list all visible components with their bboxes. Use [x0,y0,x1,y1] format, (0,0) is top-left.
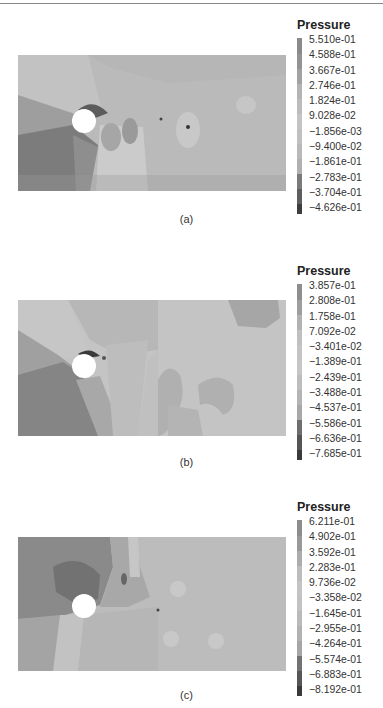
tick-label: 6.211e-01 [309,514,362,529]
pressure-contour-plot-a [18,55,286,191]
tick-label: 1.824e-01 [309,93,362,108]
colorbar [297,284,302,460]
tick-label: −5.574e-01 [309,652,362,667]
tick-label: −3.704e-01 [309,185,362,200]
tick-label: 9.736e-02 [309,575,362,590]
tick-label: 5.510e-01 [309,32,362,47]
tick-label: −1.861e-01 [309,154,362,169]
colorbar [297,520,302,696]
tick-label: −9.400e-02 [309,139,362,154]
tick-label: −2.783e-01 [309,170,362,185]
tick-label: 1.758e-01 [309,309,362,324]
colorbar-tick-labels: 6.211e-01 4.902e-01 3.592e-01 2.283e-01 … [309,514,362,698]
tick-label: −2.955e-01 [309,621,362,636]
tick-label: −3.401e-02 [309,339,362,354]
top-rule [0,3,383,4]
colorbar-tick-labels: 5.510e-01 4.588e-01 3.667e-01 2.746e-01 … [309,32,362,216]
tick-label: −3.358e-02 [309,590,362,605]
tick-label: 4.902e-01 [309,529,362,544]
pressure-contour-plot-b [18,300,286,436]
caption-c: (c) [0,689,378,701]
colorbar-tick-labels: 3.857e-01 2.808e-01 1.758e-01 7.092e-02 … [309,278,362,462]
tick-label: 3.857e-01 [309,278,362,293]
tick-label: 7.092e-02 [309,324,362,339]
tick-label: −1.389e-01 [309,354,362,369]
tick-label: −6.636e-01 [309,431,362,446]
tick-label: 2.283e-01 [309,560,362,575]
colorbar-legend-a: Pressure 5.510e-01 4.588e-01 3.667e-01 2… [297,18,383,34]
tick-label: 3.667e-01 [309,63,362,78]
tick-label: −5.586e-01 [309,416,362,431]
colorbar [297,38,302,214]
tick-label: −1.645e-01 [309,606,362,621]
tick-label: −4.264e-01 [309,636,362,651]
colorbar-legend-c: Pressure 6.211e-01 4.902e-01 3.592e-01 2… [297,500,383,516]
tick-label: 3.592e-01 [309,545,362,560]
tick-label: 9.028e-02 [309,108,362,123]
tick-label: −1.856e-03 [309,124,362,139]
colorbar-legend-b: Pressure 3.857e-01 2.808e-01 1.758e-01 7… [297,264,383,280]
caption-b: (b) [0,456,378,468]
tick-label: −2.439e-01 [309,370,362,385]
tick-label: −3.488e-01 [309,385,362,400]
tick-label: 2.746e-01 [309,78,362,93]
tick-label: −4.537e-01 [309,400,362,415]
tick-label: −6.883e-01 [309,667,362,682]
pressure-contour-plot-c [18,537,286,671]
tick-label: 2.808e-01 [309,293,362,308]
tick-label: 4.588e-01 [309,47,362,62]
caption-a: (a) [0,213,378,225]
